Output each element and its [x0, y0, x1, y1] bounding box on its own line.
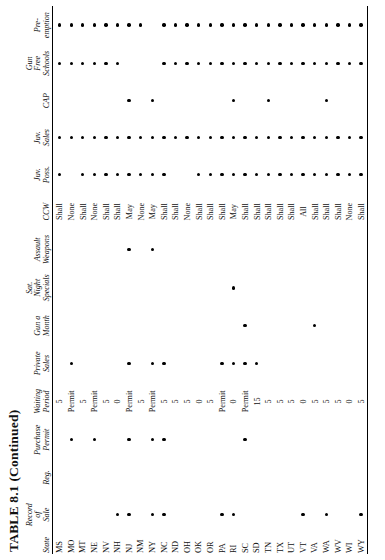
col-preemption-cell: [181, 6, 193, 44]
col-record-of-sale-cell: [181, 496, 193, 534]
col-assault-weapons-cell: [158, 230, 170, 269]
cell-value: Permit: [241, 390, 250, 412]
filled-dot-icon: [336, 136, 339, 139]
col-sat-night-specials-cell: [227, 269, 239, 307]
filled-dot-icon: [209, 173, 212, 176]
col-private-sales-cell: [158, 344, 170, 382]
col-ccw-cell: None: [343, 193, 355, 230]
col-sat-night-specials-cell: [239, 269, 251, 307]
col-juv-poss-cell: [111, 156, 123, 193]
col-reg-cell: [216, 459, 228, 496]
col-private-sales-cell: [262, 344, 274, 382]
cell-value: Shall: [264, 203, 273, 220]
filled-dot-icon: [278, 23, 281, 26]
filled-dot-icon: [70, 62, 73, 65]
filled-dot-icon: [243, 136, 246, 139]
filled-dot-icon: [325, 23, 328, 26]
col-ccw-cell: None: [88, 193, 100, 230]
cell-value: 5: [183, 399, 192, 403]
col-juv-sales-cell: [134, 119, 146, 156]
col-ccw-cell: Shall: [250, 193, 262, 230]
col-purchase-permit-cell: [216, 420, 228, 459]
filled-dot-icon: [243, 62, 246, 65]
col-cap-cell: [343, 82, 355, 119]
table-row: TN5Shall: [262, 6, 274, 554]
filled-dot-icon: [325, 513, 328, 516]
col-gun-free-schools-cell: [308, 44, 320, 82]
col-juv-sales-cell: [146, 119, 158, 156]
col-record-of-sale-cell: [262, 496, 274, 534]
col-sat-night-specials-cell: [308, 269, 320, 307]
cell-value: 5: [137, 399, 146, 403]
filled-dot-icon: [325, 173, 328, 176]
filled-dot-icon: [81, 62, 84, 65]
col-ccw-header: CCW: [26, 193, 53, 230]
col-juv-sales-cell: [181, 119, 193, 156]
col-juv-poss-cell: [88, 156, 100, 193]
col-reg-cell: [355, 459, 367, 496]
col-waiting-period-cell: 5: [204, 382, 216, 420]
col-gun-free-schools-header: GunFreeSchools: [26, 44, 53, 82]
col-reg-cell: [343, 459, 355, 496]
col-assault-weapons-cell: [181, 230, 193, 269]
state-label: RI: [227, 534, 239, 554]
filled-dot-icon: [267, 99, 270, 102]
col-preemption-cell: [204, 6, 216, 44]
col-cap-cell: [181, 82, 193, 119]
col-gun-a-month-cell: [204, 307, 216, 345]
filled-dot-icon: [290, 173, 293, 176]
col-sat-night-specials-cell: [88, 269, 100, 307]
col-cap-header: CAP: [26, 82, 53, 119]
table-row: VA5Shall: [308, 6, 320, 554]
col-private-sales-cell: [146, 344, 158, 382]
col-sat-night-specials-cell: [181, 269, 193, 307]
filled-dot-icon: [348, 136, 351, 139]
col-record-of-sale-cell: [343, 496, 355, 534]
col-gun-free-schools-cell: [76, 44, 88, 82]
cell-value: Shall: [171, 203, 180, 220]
col-sat-night-specials-cell: [100, 269, 112, 307]
col-sat-night-specials-cell: [53, 269, 65, 307]
filled-dot-icon: [336, 23, 339, 26]
col-record-of-sale-cell: [111, 496, 123, 534]
table-row: MS5Shall: [53, 6, 65, 554]
col-juv-sales-cell: [250, 119, 262, 156]
col-ccw-cell: May: [146, 193, 158, 230]
col-juv-poss-cell: [134, 156, 146, 193]
col-private-sales-cell: [332, 344, 344, 382]
table-row: TX5Shall: [274, 6, 286, 554]
cell-value: Permit: [125, 390, 134, 412]
filled-dot-icon: [209, 62, 212, 65]
col-sat-night-specials-cell: [216, 269, 228, 307]
col-gun-free-schools-cell: [146, 44, 158, 82]
col-purchase-permit-cell: [297, 420, 309, 459]
col-private-sales-cell: [285, 344, 297, 382]
state-label: NH: [111, 534, 123, 554]
col-preemption-cell: [192, 6, 204, 44]
filled-dot-icon: [58, 62, 61, 65]
filled-dot-icon: [104, 62, 107, 65]
col-juv-poss-cell: [320, 156, 332, 193]
col-waiting-period-cell: 5: [76, 382, 88, 420]
col-private-sales-header: PrivateSales: [26, 344, 53, 382]
col-purchase-permit-cell: [227, 420, 239, 459]
col-gun-a-month-cell: [262, 307, 274, 345]
col-gun-a-month-cell: [320, 307, 332, 345]
header-line: Sales: [43, 344, 51, 382]
filled-dot-icon: [220, 513, 223, 516]
filled-dot-icon: [197, 173, 200, 176]
col-gun-free-schools-cell: [343, 44, 355, 82]
filled-dot-icon: [197, 23, 200, 26]
col-gun-a-month-cell: [169, 307, 181, 345]
col-sat-night-specials-cell: [146, 269, 158, 307]
table-row: WA5Shall: [320, 6, 332, 554]
col-preemption-cell: [123, 6, 135, 44]
col-reg-cell: [88, 459, 100, 496]
col-purchase-permit-cell: [308, 420, 320, 459]
state-label: NC: [158, 534, 170, 554]
state-label: NV: [100, 534, 112, 554]
col-record-of-sale-cell: [134, 496, 146, 534]
filled-dot-icon: [185, 136, 188, 139]
col-reg-cell: [262, 459, 274, 496]
cell-value: Shall: [79, 203, 88, 220]
